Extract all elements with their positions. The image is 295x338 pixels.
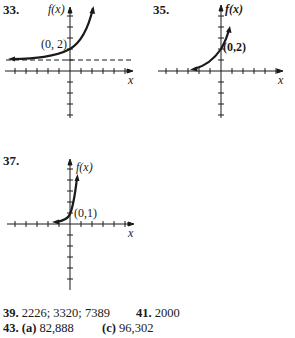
graph-33-y-label: f(x) [48,2,65,17]
answer-43-part-c-label: (c) [102,321,116,335]
graph-35-point-label: (0,2) [223,40,246,55]
answer-43-part-c: 96,302 [119,321,153,335]
answer-39: 39. 2226; 3320; 7389 [3,306,110,321]
answer-41-number: 41. [136,306,152,320]
answer-39-text: 2226; 3320; 7389 [22,306,110,320]
graph-37-x-label: x [128,226,133,241]
answer-43-number: 43. [3,321,19,335]
answer-41: 41. 2000 [136,306,180,321]
graph-35-y-label: f(x) [225,2,243,17]
graph-35-x-label: x [278,73,283,88]
answer-43-part-a-label: (a) [22,321,37,335]
answer-43-part-a: 82,888 [39,321,73,335]
answer-39-number: 39. [3,306,19,320]
problem-37-number: 37. [3,153,19,169]
graph-37-point-label: (0,1) [74,206,97,221]
graph-37-y-label: f(x) [76,160,93,175]
graph-33-x-label: x [128,73,133,88]
graph-33-point-label: (0, 2) [41,37,67,52]
answer-43: 43. (a) 82,888 (c) 96,302 [3,321,153,336]
problem-35-number: 35. [153,2,169,18]
answer-41-text: 2000 [155,306,180,320]
problem-33-number: 33. [3,2,19,18]
